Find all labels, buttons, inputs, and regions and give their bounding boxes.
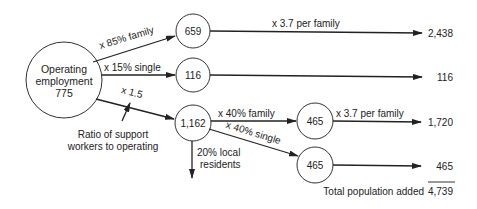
edge-label-to-single: x 15% single [104, 62, 161, 73]
result-family-pop: 2,438 [420, 28, 453, 39]
arrow-single-out [210, 75, 422, 77]
edge-label-family-out: x 3.7 per family [272, 18, 340, 29]
arrow-family-out [210, 31, 422, 33]
result-support-single-pop: 465 [420, 161, 453, 172]
operating-line1: Operating [26, 63, 102, 75]
local-line1: 20% local [197, 147, 241, 159]
total-label: Total population added [296, 186, 424, 197]
annotation-line1: Ratio of support [58, 129, 168, 141]
result-support-family-pop: 1,720 [420, 117, 453, 128]
arrow-to-support [96, 99, 174, 119]
support-family-node-value: 465 [297, 116, 333, 127]
family-node-value: 659 [176, 26, 210, 37]
annotation-support-ratio: Ratio of support workers to operating [58, 129, 168, 153]
arrow-support-single-out [333, 165, 421, 166]
edge-label-support-to-family: x 40% family [218, 108, 275, 119]
edge-label-local-residents: 20% local residents [197, 147, 241, 171]
single-node-value: 116 [176, 70, 210, 81]
total-value: 4,739 [420, 186, 453, 197]
support-single-node-value: 465 [297, 160, 333, 171]
result-single-pop: 116 [420, 72, 453, 83]
operating-value: 775 [26, 87, 102, 99]
support-node-value: 1,162 [175, 118, 211, 129]
arrow-support-family-out [333, 121, 421, 122]
operating-node-label: Operating employment 775 [26, 63, 102, 99]
flow-diagram [0, 0, 477, 209]
edge-label-support-family-out: x 3.7 per family [336, 108, 404, 119]
annotation-line2: workers to operating [58, 141, 168, 153]
operating-line2: employment [26, 75, 102, 87]
local-line2: residents [197, 159, 241, 171]
